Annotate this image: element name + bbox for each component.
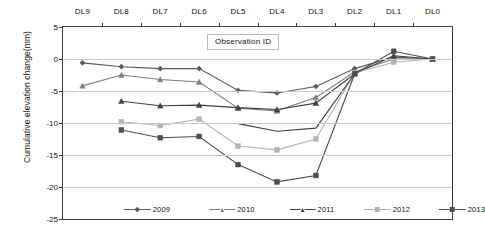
- y-tick-label: 0: [54, 55, 58, 64]
- x-tick-mark: [258, 23, 259, 27]
- gridline: [63, 187, 452, 188]
- x-tick-label-dl2: DL2: [347, 7, 362, 16]
- x-tick-label-dl7: DL7: [153, 7, 168, 16]
- series-line: [121, 51, 432, 182]
- x-tick-label-dl9: DL9: [75, 7, 90, 16]
- data-point-marker: [275, 147, 280, 152]
- x-tick-label-dl1: DL1: [386, 7, 401, 16]
- legend-item-2012[interactable]: 2012: [364, 205, 411, 214]
- y-tick-label: -20: [46, 183, 58, 192]
- x-tick-label-dl5: DL5: [230, 7, 245, 16]
- data-point-marker: [391, 60, 396, 65]
- x-tick-label-dl8: DL8: [114, 7, 129, 16]
- legend-line-icon: [439, 209, 450, 210]
- legend-item-2009[interactable]: 2009: [124, 205, 171, 214]
- y-axis-tick-labels: 50-5-10-15-20-25: [24, 26, 58, 220]
- x-tick-label-dl6: DL6: [192, 7, 207, 16]
- data-point-marker: [158, 135, 163, 140]
- x-tick-label-dl4: DL4: [269, 7, 284, 16]
- legend-label: 2009: [153, 205, 171, 214]
- data-point-marker: [313, 173, 318, 178]
- data-point-marker: [313, 84, 318, 89]
- plot-area: [62, 26, 453, 220]
- y-tick-mark: [59, 155, 63, 156]
- series-2010: [80, 56, 436, 113]
- chart-legend: 20092010201120122013: [62, 205, 453, 221]
- legend-item-2011[interactable]: 2011: [290, 205, 335, 214]
- legend-label: 2011: [318, 205, 335, 214]
- legend-line-icon: [209, 209, 220, 210]
- y-tick-mark: [59, 27, 63, 28]
- data-point-marker: [391, 49, 396, 54]
- legend-line-icon: [364, 209, 375, 210]
- series-line: [121, 59, 432, 150]
- legend-item-2013[interactable]: 2013: [439, 205, 485, 214]
- gridline: [63, 155, 452, 156]
- legend-line-icon: [224, 209, 235, 210]
- data-point-marker: [197, 117, 202, 122]
- x-tick-label-dl3: DL3: [308, 7, 323, 16]
- legend-item-2010[interactable]: 2010: [209, 205, 255, 214]
- y-tick-mark: [59, 91, 63, 92]
- data-point-marker: [236, 144, 241, 149]
- gridline: [63, 123, 452, 124]
- x-tick-mark: [374, 23, 375, 27]
- legend-label: 2012: [393, 205, 411, 214]
- y-tick-mark: [59, 59, 63, 60]
- x-tick-mark: [219, 23, 220, 27]
- legend-line-icon: [140, 209, 151, 210]
- data-point-marker: [80, 60, 85, 65]
- data-point-marker: [313, 95, 319, 100]
- legend-line-icon: [305, 209, 316, 210]
- data-point-marker: [313, 137, 318, 142]
- legend-line-icon: [455, 209, 466, 210]
- legend-label: 2010: [237, 205, 255, 214]
- y-tick-label: -5: [51, 87, 58, 96]
- x-axis-title-box: Observation ID: [207, 34, 279, 50]
- x-axis-top-ticks: DL9DL8DL7DL6DL5DL4DL3DL2DL1DL0: [62, 7, 453, 22]
- x-tick-mark: [102, 23, 103, 27]
- data-point-marker: [197, 66, 202, 71]
- x-tick-mark: [180, 23, 181, 27]
- y-tick-mark: [59, 123, 63, 124]
- data-point-marker: [275, 179, 280, 184]
- legend-line-icon: [380, 209, 391, 210]
- series-2013: [119, 49, 435, 184]
- x-tick-mark: [141, 23, 142, 27]
- y-tick-label: -25: [46, 215, 58, 224]
- x-tick-mark: [413, 23, 414, 27]
- gridline: [63, 59, 452, 60]
- legend-label: 2013: [468, 205, 485, 214]
- data-point-marker: [236, 162, 241, 167]
- x-tick-label-dl0: DL0: [425, 7, 440, 16]
- y-tick-mark: [59, 187, 63, 188]
- legend-marker-icon: [134, 207, 140, 213]
- data-point-marker: [119, 128, 124, 133]
- y-tick-label: -10: [46, 119, 58, 128]
- legend-line-icon: [290, 209, 301, 210]
- data-point-marker: [197, 134, 202, 139]
- data-point-marker: [119, 64, 124, 69]
- data-point-marker: [158, 66, 163, 71]
- y-tick-label: 5: [54, 23, 58, 32]
- gridline: [63, 91, 452, 92]
- x-tick-mark: [296, 23, 297, 27]
- series-2011: [119, 53, 436, 112]
- x-tick-mark: [335, 23, 336, 27]
- y-tick-label: -15: [46, 151, 58, 160]
